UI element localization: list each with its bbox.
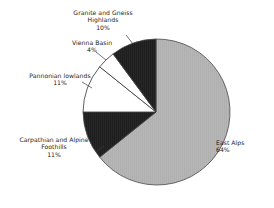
pie-label-granite-line2: Highlands xyxy=(56,16,150,23)
pie-label-east-alps: East Alps 64% xyxy=(216,139,272,154)
pie-label-pannonian-value: 11% xyxy=(10,79,110,86)
pie-label-vienna-value: 4% xyxy=(48,46,136,53)
pie-label-east-alps-value: 64% xyxy=(216,146,272,153)
pie-chart: Granite and Gneiss Highlands 10% Vienna … xyxy=(0,0,274,208)
pie-label-granite-and-gneiss-highlands: Granite and Gneiss Highlands 10% xyxy=(56,9,150,31)
pie-label-east-alps-line1: East Alps xyxy=(216,139,272,146)
pie-label-vienna-basin: Vienna Basin 4% xyxy=(48,39,136,54)
pie-label-carpathian-value: 11% xyxy=(2,151,106,158)
pie-label-carpathian-line1: Carpathian and Alpine xyxy=(2,136,106,143)
pie-label-vienna-line1: Vienna Basin xyxy=(48,39,136,46)
pie-label-pannonian-line1: Pannonian lowlands xyxy=(10,72,110,79)
pie-label-pannonian-lowlands: Pannonian lowlands 11% xyxy=(10,72,110,87)
pie-label-carpathian-line2: Foothills xyxy=(2,143,106,150)
pie-label-granite-line1: Granite and Gneiss xyxy=(56,9,150,16)
pie-label-carpathian-and-alpine-foothills: Carpathian and Alpine Foothills 11% xyxy=(2,136,106,158)
pie-label-granite-value: 10% xyxy=(56,24,150,31)
